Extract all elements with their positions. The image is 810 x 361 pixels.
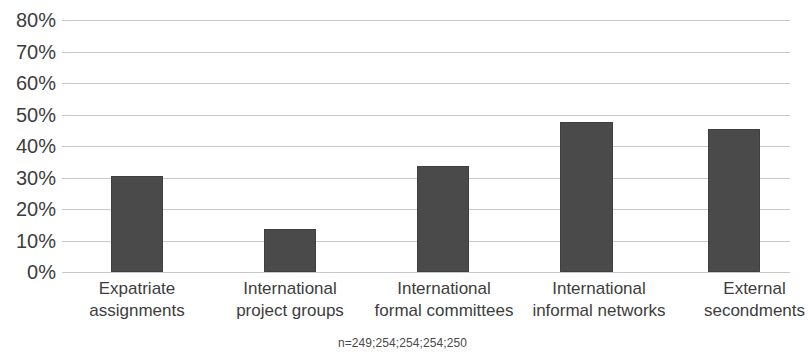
x-axis-label-international-formal-committees: International formal committees xyxy=(365,278,523,322)
sample-size-note: n=249;254;254;254;250 xyxy=(0,336,805,350)
y-tick-label-10: 10% xyxy=(16,231,56,251)
x-axis-label-line2: informal networks xyxy=(519,300,679,322)
x-axis-label-line1: International xyxy=(215,278,365,300)
x-axis-label-line2: project groups xyxy=(215,300,365,322)
x-axis-category-labels: Expatriate assignments International pro… xyxy=(62,278,790,328)
bar-international-formal-committees xyxy=(417,166,469,272)
x-axis-label-line1: International xyxy=(519,278,679,300)
x-axis-label-international-project-groups: International project groups xyxy=(215,278,365,322)
y-tick-label-50: 50% xyxy=(16,105,56,125)
x-axis-label-international-informal-networks: International informal networks xyxy=(519,278,679,322)
x-axis-label-expatriate-assignments: Expatriate assignments xyxy=(62,278,212,322)
gridline-80 xyxy=(62,20,790,21)
bar-expatriate-assignments xyxy=(111,176,163,272)
y-tick-label-20: 20% xyxy=(16,199,56,219)
bar-international-project-groups xyxy=(264,229,316,272)
x-axis-label-line1: Expatriate xyxy=(62,278,212,300)
x-axis-label-line1: International xyxy=(365,278,523,300)
plot-area xyxy=(62,20,790,272)
x-axis-label-line2: formal committees xyxy=(365,300,523,322)
bar-international-informal-networks xyxy=(560,122,613,272)
x-axis-label-line2: assignments xyxy=(62,300,212,322)
gridline-0 xyxy=(62,272,790,273)
gridline-50 xyxy=(62,115,790,116)
y-tick-label-70: 70% xyxy=(16,42,56,62)
bar-external-secondments xyxy=(708,129,760,272)
y-tick-label-30: 30% xyxy=(16,168,56,188)
y-tick-label-40: 40% xyxy=(16,136,56,156)
y-tick-label-0: 0% xyxy=(27,262,56,282)
gridline-70 xyxy=(62,52,790,53)
gridline-40 xyxy=(62,146,790,147)
x-axis-label-line2: secondments xyxy=(682,300,810,322)
x-axis-label-external-secondments: External secondments xyxy=(682,278,810,322)
y-tick-label-80: 80% xyxy=(16,10,56,30)
gridline-60 xyxy=(62,83,790,84)
x-axis-label-line1: External xyxy=(682,278,810,300)
y-axis: 80% 70% 60% 50% 40% 30% 20% 10% 0% xyxy=(0,20,56,272)
y-tick-label-60: 60% xyxy=(16,73,56,93)
